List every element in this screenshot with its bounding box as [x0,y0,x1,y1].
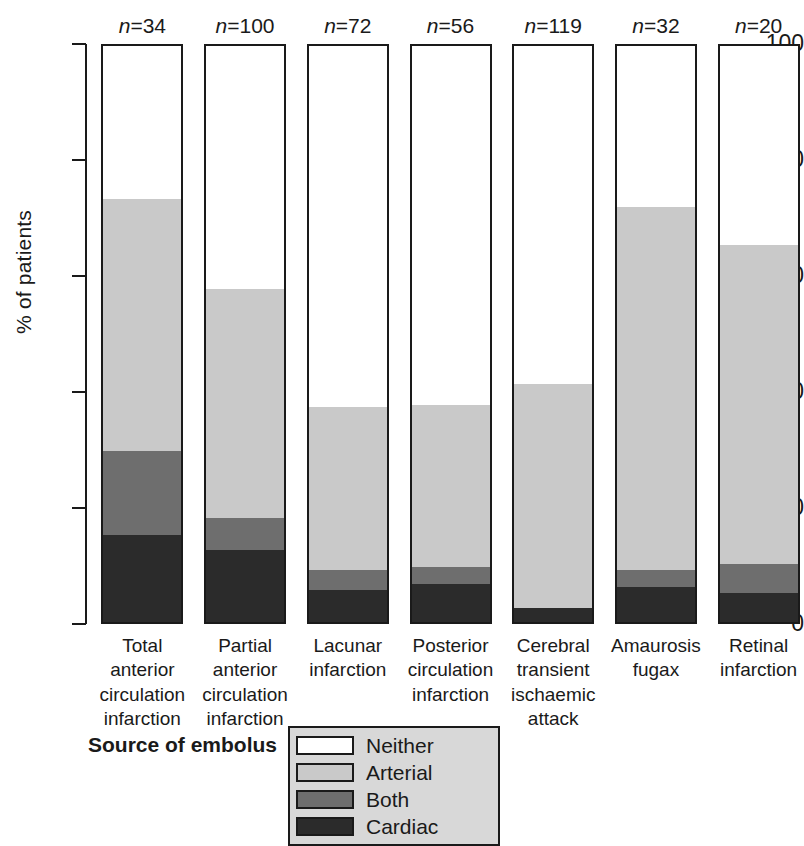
bar-group: n=56Posteriorcirculationinfarction [410,44,492,624]
bar-segment-cardiac [103,535,181,622]
stacked-bar[interactable] [615,44,697,624]
sample-size-label: n=56 [396,14,506,38]
bar-segment-neither [412,44,490,405]
legend-swatch-cardiac [296,817,354,836]
legend-title: Source of embolus [88,733,277,757]
category-label-line: infarction [720,659,797,680]
x-axis-category-label: Retinalinfarction [700,634,804,683]
legend-item[interactable]: Neither [296,732,492,759]
bar-segment-arterial [617,207,695,570]
bar-segment-both [617,570,695,587]
bar-segment-neither [309,44,387,407]
bar-segment-arterial [412,405,490,567]
category-label-line: Cerebral [517,635,590,656]
category-label-line: fugax [633,659,679,680]
bar-segment-cardiac [617,587,695,622]
bar-segment-arterial [309,407,387,569]
legend-swatch-both [296,790,354,809]
legend-label: Both [366,788,409,812]
stacked-bar[interactable] [307,44,389,624]
plot-area: n=34Totalanteriorcirculationinfarctionn=… [85,44,804,624]
bar-segment-both [412,567,490,584]
sample-size-label: n=32 [601,14,711,38]
x-axis-category-label: Cerebraltransientischaemicattack [494,634,612,731]
bar-segment-neither [617,44,695,207]
x-axis-category-label: Totalanteriorcirculationinfarction [83,634,201,731]
bar-segment-arterial [206,289,284,518]
legend-item[interactable]: Cardiac [296,813,492,840]
category-label-line: Amaurosis [611,635,701,656]
category-label-line: transient [517,659,590,680]
legend: NeitherArterialBothCardiac [288,726,500,846]
bar-segment-both [103,451,181,535]
sample-size-label: n=34 [87,14,197,38]
category-label-line: anterior [110,659,174,680]
x-axis-category-label: Lacunarinfarction [289,634,407,683]
y-axis-tick [72,623,86,625]
category-label-line: Partial [218,635,272,656]
bar-segment-cardiac [309,590,387,622]
bar-segment-cardiac [514,608,592,623]
category-label-line: infarction [309,659,386,680]
bar-group: n=72Lacunarinfarction [307,44,389,624]
bar-segment-both [720,564,798,593]
category-label-line: attack [528,708,579,729]
legend-label: Arterial [366,761,433,785]
bar-segment-neither [206,44,284,289]
bar-segment-arterial [720,245,798,564]
stacked-bar[interactable] [204,44,286,624]
bar-segment-both [309,570,387,590]
x-axis-category-label: Posteriorcirculationinfarction [392,634,510,707]
bar-segment-cardiac [720,593,798,622]
category-label-line: infarction [207,708,284,729]
bar-segment-arterial [514,384,592,607]
y-axis-tick [72,275,86,277]
category-label-line: Total [122,635,162,656]
bar-segment-cardiac [206,550,284,623]
y-axis-title: % of patients [12,162,36,382]
stacked-bar[interactable] [410,44,492,624]
x-axis-category-label: Amaurosisfugax [597,634,715,683]
stacked-bar[interactable] [718,44,800,624]
bar-group: n=34Totalanteriorcirculationinfarction [101,44,183,624]
legend-label: Neither [366,734,434,758]
category-label-line: ischaemic [511,684,595,705]
bar-group: n=32Amaurosisfugax [615,44,697,624]
legend-item[interactable]: Arterial [296,759,492,786]
sample-size-label: n=20 [704,14,804,38]
category-label-line: infarction [104,708,181,729]
sample-size-label: n=119 [498,14,608,38]
category-label-line: infarction [412,684,489,705]
bar-segment-neither [514,44,592,384]
bar-segment-arterial [103,199,181,451]
sample-size-label: n=72 [293,14,403,38]
y-axis-tick [72,391,86,393]
category-label-line: Lacunar [313,635,382,656]
category-label-line: anterior [213,659,277,680]
sample-size-label: n=100 [190,14,300,38]
bar-group: n=100Partialanteriorcirculationinfarctio… [204,44,286,624]
bar-segment-cardiac [412,584,490,622]
y-axis-tick [72,507,86,509]
stacked-bar[interactable] [101,44,183,624]
legend-item[interactable]: Both [296,786,492,813]
category-label-line: circulation [202,684,288,705]
category-label-line: circulation [408,659,494,680]
bar-segment-neither [103,44,181,199]
bar-segment-both [206,518,284,550]
category-label-line: Posterior [412,635,488,656]
y-axis-tick [72,43,86,45]
bar-group: n=20Retinalinfarction [718,44,800,624]
bar-segment-neither [720,44,798,245]
y-axis-tick [72,159,86,161]
legend-swatch-neither [296,736,354,755]
category-label-line: circulation [100,684,186,705]
stacked-bar[interactable] [512,44,594,624]
legend-swatch-arterial [296,763,354,782]
legend-label: Cardiac [366,815,438,839]
category-label-line: Retinal [729,635,788,656]
x-axis-category-label: Partialanteriorcirculationinfarction [186,634,304,731]
bar-group: n=119Cerebraltransientischaemicattack [512,44,594,624]
